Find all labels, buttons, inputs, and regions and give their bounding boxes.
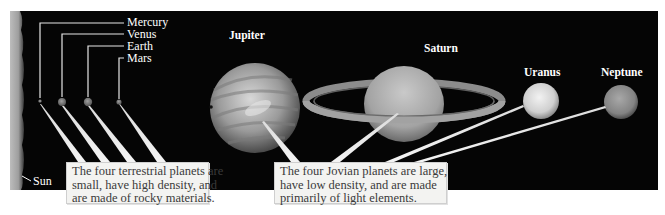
solar-system-diagram: Mercury Venus Earth Mars Sun Jupiter Sat… — [0, 0, 665, 215]
jovian-caption-line-3: primarily of light elements. — [280, 192, 441, 206]
mercury-planet — [38, 99, 41, 102]
terrestrial-caption-line-3: are made of rocky materials. — [72, 192, 203, 206]
label-neptune: Neptune — [601, 66, 643, 78]
venus-planet — [58, 98, 66, 106]
terrestrial-caption-line-2: small, have high density, and — [72, 179, 203, 193]
jovian-caption-line-2: have low density, and are made — [280, 179, 441, 193]
mars-planet — [116, 99, 121, 104]
neptune-planet — [604, 85, 638, 119]
label-mars: Mars — [127, 52, 152, 64]
label-jupiter: Jupiter — [229, 29, 265, 41]
earth-planet — [84, 98, 92, 106]
label-saturn: Saturn — [424, 42, 458, 54]
terrestrial-caption-line-1: The four terrestrial planets are — [72, 165, 203, 179]
label-sun: Sun — [33, 175, 52, 187]
uranus-planet — [523, 83, 559, 119]
jovian-caption-box: The four Jovian planets are large, have … — [274, 162, 447, 204]
sun-icon — [10, 11, 24, 190]
terrestrial-caption-box: The four terrestrial planets are small, … — [66, 162, 209, 204]
label-uranus: Uranus — [524, 66, 560, 78]
jovian-caption-line-1: The four Jovian planets are large, — [280, 165, 441, 179]
